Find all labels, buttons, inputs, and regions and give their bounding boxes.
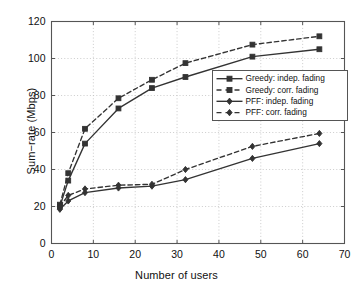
legend-item-label: Greedy: indep. fading	[246, 73, 325, 83]
legend-item-label: Greedy: corr. fading	[246, 85, 319, 95]
legend-item-label: PFF: corr. fading	[246, 107, 307, 117]
x-tick-label: 30	[162, 248, 192, 260]
chart-figure: 010203040506070020406080100120 Greedy: i…	[0, 0, 353, 290]
plot-canvas	[0, 0, 353, 290]
y-axis-label-wrapper: Sum−rate (Mbps)	[21, 26, 39, 236]
x-tick-label: 40	[204, 248, 234, 260]
x-tick-label: 60	[288, 248, 318, 260]
y-tick-label: 0	[16, 237, 46, 249]
x-axis-label: Number of users	[0, 269, 353, 281]
x-tick-label: 10	[78, 248, 108, 260]
data-series-layer	[57, 34, 322, 212]
x-tick-label: 50	[246, 248, 276, 260]
y-tick-label: 120	[16, 15, 46, 27]
x-tick-label: 0	[37, 248, 67, 260]
y-axis-label: Sum−rate (Mbps)	[25, 88, 37, 175]
x-tick-label: 20	[120, 248, 150, 260]
legend-item-label: PFF: indep. fading	[246, 96, 314, 106]
x-tick-label: 70	[330, 248, 353, 260]
